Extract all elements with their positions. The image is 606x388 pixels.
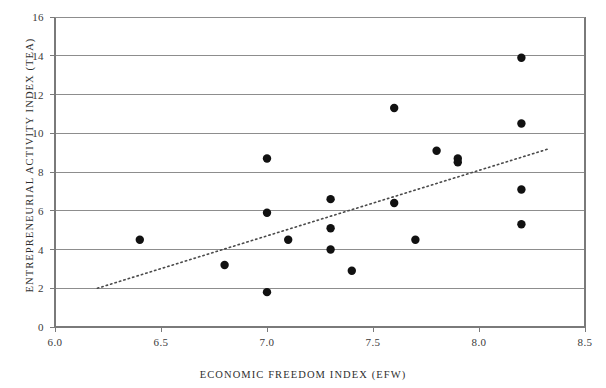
data-point <box>326 245 334 253</box>
data-point <box>432 146 440 154</box>
trend-line <box>97 149 549 289</box>
scatter-chart: 0246810121416 6.06.57.07.58.08.5 ECONOMI… <box>0 0 606 388</box>
data-point <box>517 119 525 127</box>
y-axis-title: ENTREPRENEURIAL ACTIVITY INDEX (TEA) <box>24 63 35 293</box>
data-point <box>390 199 398 207</box>
plot-canvas <box>0 0 606 388</box>
data-point <box>263 154 271 162</box>
x-tick-marks <box>55 327 585 332</box>
x-tick-label: 6.0 <box>48 336 63 348</box>
data-point <box>454 158 462 166</box>
data-points <box>136 53 526 296</box>
data-point <box>326 195 334 203</box>
x-tick-label: 7.5 <box>366 336 381 348</box>
data-point <box>220 261 228 269</box>
x-axis-title: ECONOMIC FREEDOM INDEX (EFW) <box>0 369 606 380</box>
y-tick-marks <box>50 17 55 327</box>
x-tick-label: 8.0 <box>472 336 487 348</box>
data-point <box>517 185 525 193</box>
data-point <box>411 236 419 244</box>
y-tick-label: 16 <box>14 11 44 23</box>
x-tick-label: 7.0 <box>260 336 275 348</box>
data-point <box>348 267 356 275</box>
data-point <box>517 53 525 61</box>
data-point <box>517 220 525 228</box>
data-point <box>263 288 271 296</box>
data-point <box>263 208 271 216</box>
gridlines <box>55 56 585 327</box>
data-point <box>136 236 144 244</box>
x-tick-label: 8.5 <box>578 336 593 348</box>
data-point <box>326 224 334 232</box>
data-point <box>284 236 292 244</box>
x-tick-label: 6.5 <box>154 336 169 348</box>
data-point <box>390 104 398 112</box>
y-tick-label: 0 <box>14 321 44 333</box>
